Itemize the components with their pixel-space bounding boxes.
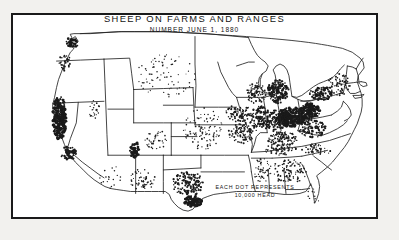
density-dot	[61, 64, 63, 66]
density-dot	[173, 84, 174, 85]
density-dot	[219, 130, 220, 131]
density-dot	[94, 113, 95, 114]
density-dot	[136, 147, 138, 149]
density-dot	[321, 89, 323, 91]
density-dot	[270, 141, 272, 143]
density-dot	[260, 123, 262, 125]
density-dot	[343, 75, 345, 77]
density-dot	[291, 137, 293, 139]
density-dot	[284, 133, 286, 135]
density-dot	[221, 122, 222, 123]
density-dot	[135, 151, 137, 153]
density-dot	[136, 144, 138, 146]
density-dot	[232, 133, 234, 135]
density-dot	[157, 133, 158, 134]
border-vt-nh	[347, 66, 356, 69]
density-dot	[331, 85, 332, 86]
density-dot	[320, 149, 321, 150]
density-dot	[277, 113, 279, 115]
density-dot	[211, 120, 212, 121]
density-dot	[306, 147, 307, 148]
density-dot	[315, 127, 317, 129]
density-dot	[135, 150, 137, 152]
density-dot	[295, 110, 298, 113]
density-dot	[54, 107, 57, 110]
density-dot	[201, 182, 202, 183]
density-dot	[187, 185, 189, 187]
density-dot	[292, 134, 294, 136]
density-dot	[66, 43, 68, 45]
density-dot	[293, 141, 295, 143]
density-dot	[252, 85, 253, 86]
density-dot	[213, 134, 214, 135]
density-dot	[138, 81, 139, 82]
density-dot	[213, 139, 215, 141]
density-dot	[263, 120, 265, 122]
density-dot	[216, 130, 217, 131]
density-dot	[148, 143, 149, 144]
density-dot	[339, 83, 341, 85]
density-dot	[107, 181, 108, 182]
density-dot	[349, 85, 351, 87]
density-dot	[230, 108, 232, 110]
density-dot	[200, 131, 202, 132]
density-dot	[338, 73, 340, 75]
density-dot	[183, 176, 185, 178]
density-dot	[329, 150, 331, 152]
density-dot	[94, 114, 95, 115]
density-dot	[55, 133, 57, 135]
density-dot	[160, 132, 161, 133]
density-dot	[278, 121, 280, 123]
density-dot	[277, 83, 279, 85]
density-dot	[263, 177, 265, 178]
density-dot	[193, 189, 195, 191]
density-dot	[291, 133, 293, 135]
density-dot	[192, 137, 193, 138]
density-dot	[190, 174, 192, 176]
density-dot	[318, 124, 319, 125]
density-dot	[279, 126, 281, 128]
density-dot	[257, 160, 258, 161]
density-dot	[267, 145, 269, 147]
density-dot	[250, 113, 251, 114]
density-dot	[103, 181, 105, 183]
density-dot	[256, 86, 258, 88]
density-dot	[267, 118, 268, 119]
density-dot	[93, 107, 95, 108]
state-boundaries	[53, 32, 368, 211]
cape-cod	[360, 82, 367, 87]
density-dot	[347, 81, 348, 82]
density-dot	[213, 111, 214, 112]
density-dot	[280, 175, 282, 177]
density-dot	[307, 104, 310, 107]
density-dot	[158, 131, 159, 132]
density-dot	[310, 90, 312, 92]
density-dot	[256, 112, 258, 114]
density-dot	[313, 148, 314, 149]
density-dot	[187, 134, 189, 136]
density-dot	[181, 172, 183, 174]
density-dot	[301, 149, 303, 151]
border-sc-ga	[302, 164, 311, 186]
density-dot	[271, 139, 273, 141]
density-dot	[164, 135, 166, 137]
long-island	[353, 94, 364, 98]
density-dot	[291, 150, 293, 152]
density-dot	[265, 149, 266, 150]
density-dot	[189, 176, 191, 178]
density-dot	[151, 186, 153, 188]
density-dot	[288, 173, 290, 175]
density-dot	[96, 102, 98, 104]
density-dot	[62, 130, 65, 133]
density-dot	[278, 154, 279, 155]
density-dot	[286, 121, 288, 123]
density-dot	[163, 146, 165, 148]
density-dot	[260, 100, 261, 101]
density-dot	[229, 134, 231, 136]
density-dot	[170, 76, 172, 78]
density-dot	[66, 55, 68, 57]
border-la-ms	[251, 172, 255, 192]
density-dot	[190, 133, 192, 135]
density-dot	[186, 137, 187, 138]
density-dot	[148, 146, 149, 147]
